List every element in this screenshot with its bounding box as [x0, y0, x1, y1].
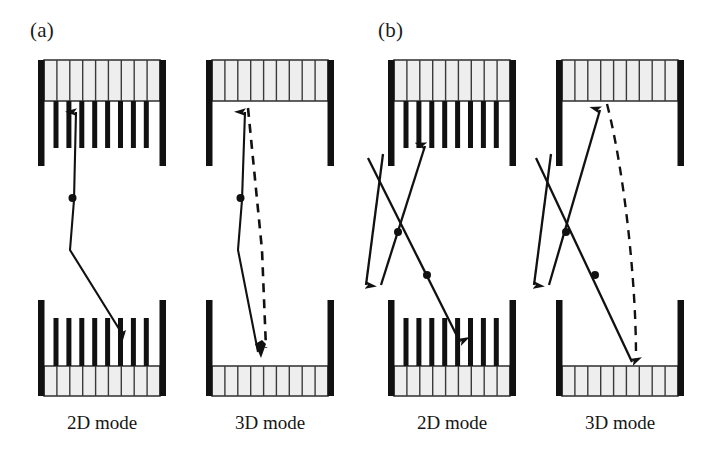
b-3d-escape-beam: [534, 154, 551, 285]
b-2d-bottom-left-wall: [388, 300, 395, 396]
a-2d-bottom-well-dividers: [57, 366, 147, 396]
b-2d-top-well-dividers: [407, 60, 497, 101]
a-3d-dashed-trajectory: [248, 108, 266, 348]
b-2d-top-comb-teeth: [404, 101, 499, 148]
a-3d-top-well-dividers: [225, 60, 315, 101]
b-3d-bottom-well-dividers: [575, 366, 665, 396]
a-2d-bottom-structure: [38, 300, 166, 396]
a-3d-bottom-well: [212, 366, 328, 396]
a-2d-carrier-trajectory: [70, 112, 121, 332]
b-2d-top-right-wall: [510, 60, 517, 166]
b-3d-bottom-structure: [556, 300, 684, 396]
a-2d-bottom-well: [44, 366, 160, 396]
b-2d-top-structure: [388, 60, 516, 166]
b-2d-bottom-well-dividers: [407, 366, 497, 396]
a-2d-top-comb-teeth: [54, 101, 149, 148]
b-3d-upward-beam: [549, 110, 600, 285]
panel-label-a: (a): [30, 18, 54, 43]
a-3d-bottom-structure: [206, 300, 334, 396]
b-2d-upward-beam: [381, 146, 425, 285]
a-2d-bottom-comb-teeth: [54, 318, 149, 366]
a-3d-top-left-wall: [206, 60, 213, 166]
a-2d-bottom-right-wall: [160, 300, 167, 396]
panel-label-b: (b): [378, 18, 403, 43]
b-3d-top-left-wall: [556, 60, 563, 166]
subpanel-a-3d: [206, 60, 334, 396]
b-3d-upward-scattering-dot: [562, 228, 570, 236]
b-2d-upward-scattering-dot: [394, 228, 402, 236]
b-2d-bottom-comb-teeth: [404, 318, 499, 366]
b-2d-downward-scattering-dot: [423, 271, 431, 279]
b-3d-top-right-wall: [678, 60, 685, 166]
diagram-canvas: [0, 0, 702, 451]
figure-root: (a) (b) 2D mode 3D mode 2D mode 3D mode: [0, 0, 702, 451]
subpanel-b-3d: [534, 60, 684, 396]
b-3d-top-well: [562, 60, 678, 101]
b-2d-downward-beam: [368, 158, 460, 342]
a-2d-scattering-dot: [69, 194, 77, 202]
a-3d-bottom-left-wall: [206, 300, 213, 396]
b-3d-bottom-right-wall: [678, 300, 685, 396]
b-2d-escape-beam: [366, 154, 383, 285]
a-3d-top-right-wall: [328, 60, 335, 166]
subpanel-a-2d: [38, 60, 166, 396]
caption-b-2d-mode: 2D mode: [388, 412, 516, 434]
a-2d-top-right-wall: [160, 60, 167, 166]
caption-a-2d-mode: 2D mode: [38, 412, 166, 434]
a-3d-bottom-right-wall: [328, 300, 335, 396]
b-2d-bottom-right-wall: [510, 300, 517, 396]
a-3d-carrier-trajectory: [238, 112, 258, 352]
b-3d-bottom-well: [562, 366, 678, 396]
caption-b-3d-mode: 3D mode: [556, 412, 684, 434]
a-2d-bottom-left-wall: [38, 300, 45, 396]
a-2d-top-left-wall: [38, 60, 45, 166]
subpanel-b-2d: [366, 60, 516, 396]
b-3d-top-well-dividers: [575, 60, 665, 101]
a-3d-scattering-dot: [237, 194, 245, 202]
a-2d-top-well: [44, 60, 160, 101]
a-3d-bottom-well-dividers: [225, 366, 315, 396]
b-2d-bottom-well: [394, 366, 510, 396]
a-2d-top-well-dividers: [57, 60, 147, 101]
b-2d-top-left-wall: [388, 60, 395, 166]
caption-a-3d-mode: 3D mode: [206, 412, 334, 434]
b-3d-downward-scattering-dot: [591, 271, 599, 279]
a-2d-trajectory-end-arrowhead: [118, 330, 126, 340]
b-2d-bottom-structure: [388, 300, 516, 396]
a-3d-downward-arrowhead: [255, 340, 266, 358]
a-2d-top-structure: [38, 60, 166, 166]
b-2d-top-well: [394, 60, 510, 101]
b-3d-dashed-trajectory: [607, 104, 636, 356]
b-3d-top-structure: [556, 60, 684, 166]
a-3d-top-well: [212, 60, 328, 101]
b-3d-downward-beam: [536, 158, 632, 362]
a-3d-top-structure: [206, 60, 334, 166]
b-3d-bottom-left-wall: [556, 300, 563, 396]
